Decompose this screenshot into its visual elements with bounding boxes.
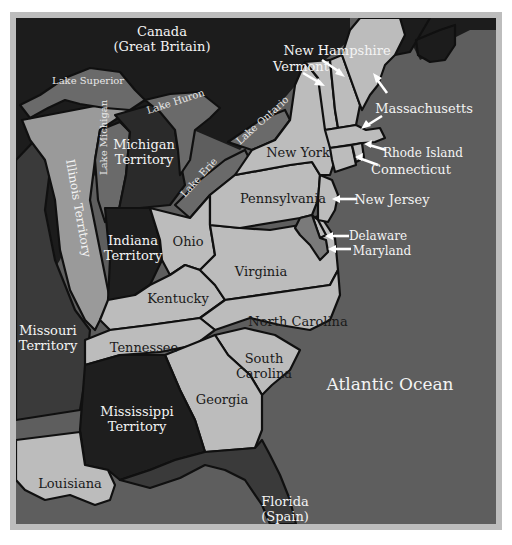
map-canvas: Canada (Great Britain) Lake Superior Lak… <box>16 18 496 524</box>
south-carolina-sublabel: Carolina <box>236 366 292 381</box>
lake-michigan-label: Lake Michigan <box>98 99 109 175</box>
louisiana-label: Louisiana <box>38 476 102 491</box>
maryland-label: Maryland <box>353 244 412 258</box>
mississippi-territory-sublabel: Territory <box>108 419 167 434</box>
new-york-label: New York <box>266 145 330 160</box>
pennsylvania-label: Pennsylvania <box>240 191 326 206</box>
indiana-territory-sublabel: Territory <box>104 248 163 263</box>
missouri-territory-label: Missouri <box>19 323 76 338</box>
michigan-territory-sublabel: Territory <box>115 152 174 167</box>
michigan-territory-label: Michigan <box>113 137 175 152</box>
mississippi-territory-label: Mississippi <box>100 404 173 419</box>
delaware-label: Delaware <box>349 229 407 243</box>
canada-sublabel: (Great Britain) <box>114 39 211 54</box>
vermont-label: Vermont <box>272 59 330 74</box>
florida-label: Florida <box>261 494 309 509</box>
south-carolina-label: South <box>245 351 284 366</box>
virginia-label: Virginia <box>234 264 288 279</box>
lake-superior-label: Lake Superior <box>52 75 124 86</box>
connecticut-label: Connecticut <box>371 162 452 177</box>
georgia-label: Georgia <box>196 392 249 407</box>
atlantic-ocean-label: Atlantic Ocean <box>325 374 453 394</box>
new-hampshire-label: New Hampshire <box>283 43 390 58</box>
tennessee-label: Tennessee <box>110 340 179 355</box>
florida-sublabel: (Spain) <box>261 509 309 524</box>
ohio-label: Ohio <box>172 234 203 249</box>
indiana-territory-label: Indiana <box>108 233 158 248</box>
missouri-territory-sublabel: Territory <box>19 338 78 353</box>
canada-label: Canada <box>137 24 187 39</box>
north-carolina-label: North Carolina <box>248 314 348 329</box>
rhode-island-label: Rhode Island <box>383 146 463 160</box>
new-jersey-label: New Jersey <box>354 192 430 207</box>
massachusetts-label: Massachusetts <box>375 101 473 116</box>
kentucky-label: Kentucky <box>147 291 209 306</box>
